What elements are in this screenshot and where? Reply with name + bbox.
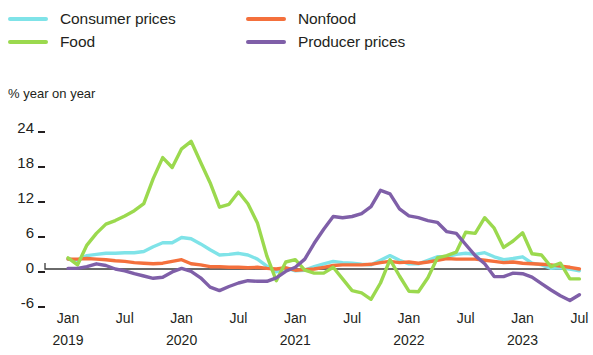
y-axis-tick-mark	[38, 236, 45, 238]
x-axis-tick-label: Jul	[218, 310, 258, 326]
y-axis-tick-mark	[38, 271, 45, 273]
y-axis-tick-label: 18	[6, 154, 34, 171]
x-axis-year-label: 2021	[273, 332, 317, 348]
line-swatch-icon	[8, 17, 48, 21]
x-axis-tick-label: Jul	[559, 310, 593, 326]
x-axis-tick-label: Jul	[332, 310, 372, 326]
y-axis-tick-mark	[38, 131, 45, 133]
x-axis-year-label: 2022	[387, 332, 431, 348]
y-axis-tick-label: -6	[6, 294, 34, 311]
x-axis-year-label: 2023	[501, 332, 545, 348]
x-axis-tick-label: Jan	[275, 310, 315, 326]
y-axis-tick-mark	[38, 201, 45, 203]
x-axis-tick-label: Jan	[389, 310, 429, 326]
y-axis-tick-label: 0	[6, 259, 34, 276]
x-axis-tick-label: Jan	[162, 310, 202, 326]
line-swatch-icon	[246, 17, 286, 21]
legend-item-consumer-prices: Consumer prices	[8, 10, 176, 28]
y-axis-tick-label: 12	[6, 189, 34, 206]
x-axis-year-label: 2019	[46, 332, 90, 348]
legend-label: Producer prices	[298, 33, 405, 51]
legend-label: Consumer prices	[60, 10, 176, 28]
y-axis-tick-mark	[38, 166, 45, 168]
legend-label: Food	[60, 33, 95, 51]
x-axis-tick-label: Jul	[105, 310, 145, 326]
x-axis-tick-label: Jan	[48, 310, 88, 326]
y-axis-tick-label: 6	[6, 224, 34, 241]
x-axis-tick-label: Jul	[446, 310, 486, 326]
legend-item-producer-prices: Producer prices	[246, 33, 405, 51]
legend-label: Nonfood	[298, 10, 356, 28]
x-axis-year-label: 2020	[160, 332, 204, 348]
x-axis-tick-label: Jan	[503, 310, 543, 326]
legend-item-nonfood: Nonfood	[246, 10, 356, 28]
y-axis-tick-mark	[38, 306, 45, 308]
chart-legend: Consumer pricesNonfoodFoodProducer price…	[0, 0, 587, 62]
line-swatch-icon	[8, 40, 48, 44]
line-swatch-icon	[246, 40, 286, 44]
y-axis-tick-label: 24	[6, 119, 34, 136]
chart-plot-area: % year on year 24181260-6Jan2019JulJan20…	[0, 62, 587, 355]
legend-item-food: Food	[8, 33, 95, 51]
